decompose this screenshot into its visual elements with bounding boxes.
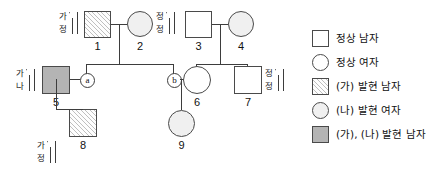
individual-8-symbol[interactable] [69, 109, 97, 137]
y-chromosome-icon [26, 69, 33, 91]
chromosome-bars-7 [274, 69, 285, 91]
legend-row-ga-male: (가) 발현 남자 [312, 74, 440, 98]
individual-3-symbol[interactable] [185, 11, 212, 38]
individual-4-label: 4 [228, 41, 254, 52]
y-chromosome-icon [166, 12, 173, 34]
legend-row-normal-male: 정상 남자 [312, 26, 440, 50]
legend-symbol-normal-female [312, 54, 329, 71]
x-chromosome-icon [34, 69, 35, 91]
allele-column-8: 가 정 [37, 141, 45, 163]
sibship-line-a-b [86, 64, 174, 65]
individual-9-symbol[interactable] [168, 110, 195, 137]
allele-bottom-8: 정 [37, 154, 45, 163]
legend-label-normal-female: 정상 여자 [336, 56, 379, 68]
legend-symbol-ga-na-male [312, 126, 329, 143]
anonymous-member-b[interactable]: b [167, 73, 182, 88]
mating-line-5-a [70, 79, 80, 80]
individual-7-symbol[interactable] [234, 66, 262, 94]
allele-bottom-1: 정 [59, 25, 67, 34]
chromosome-bars-8 [46, 141, 57, 163]
allele-bottom-3: 정 [156, 25, 164, 34]
individual-1-label: 1 [84, 41, 111, 52]
x-chromosome-icon [77, 12, 78, 34]
x-chromosome-icon [283, 69, 284, 91]
allele-column-3: 정 정 [156, 12, 164, 34]
descent-line-b-6 [181, 79, 182, 110]
genotype-marker-1: 가 정 [59, 11, 80, 35]
legend-symbol-na-female [312, 102, 329, 119]
individual-6-label: 6 [183, 97, 211, 108]
legend-row-normal-female: 정상 여자 [312, 50, 440, 74]
individual-9-label: 9 [168, 140, 195, 151]
legend-row-na-female: (나) 발현 여자 [312, 98, 440, 122]
legend-label-ga-na-male: (가), (나) 발현 남자 [336, 128, 426, 140]
chromosome-bars-5 [25, 69, 36, 91]
legend-row-ga-na-male: (가), (나) 발현 남자 [312, 122, 440, 146]
individual-4-symbol[interactable] [228, 11, 254, 37]
y-chromosome-icon [69, 12, 76, 34]
allele-column-7: 정 정 [265, 69, 273, 91]
allele-column-5: 가 나 [16, 69, 24, 91]
chromosome-bars-3 [165, 12, 176, 34]
legend: 정상 남자 정상 여자 (가) 발현 남자 (나) 발현 여자 (가), (나)… [312, 26, 440, 146]
allele-top-7: 정 [265, 69, 273, 78]
x-chromosome-icon [174, 12, 175, 34]
individual-3-label: 3 [185, 41, 212, 52]
descent-line-3-4 [220, 24, 221, 64]
legend-label-normal-male: 정상 남자 [336, 32, 379, 44]
genotype-marker-7: 정 정 [265, 68, 286, 92]
allele-top-5: 가 [16, 69, 24, 78]
legend-symbol-normal-male [312, 30, 329, 47]
link-line-to-8 [56, 109, 83, 110]
individual-8-label: 8 [69, 140, 97, 151]
chromosome-bars-1 [68, 12, 79, 34]
y-chromosome-icon [275, 69, 282, 91]
individual-2-symbol[interactable] [127, 11, 153, 37]
allele-top-3: 정 [156, 12, 164, 21]
individual-2-label: 2 [127, 41, 153, 52]
allele-bottom-5: 나 [16, 82, 24, 91]
allele-bottom-7: 정 [265, 82, 273, 91]
allele-top-1: 가 [59, 12, 67, 21]
genotype-marker-8: 가 정 [37, 140, 58, 164]
individual-6-symbol[interactable] [183, 66, 211, 94]
anonymous-member-a[interactable]: a [80, 73, 95, 88]
individual-7-label: 7 [234, 97, 262, 108]
individual-1-symbol[interactable] [84, 11, 111, 38]
allele-column-1: 가 정 [59, 12, 67, 34]
genotype-marker-3: 정 정 [156, 11, 177, 35]
y-chromosome-icon [47, 141, 54, 163]
allele-top-8: 가 [37, 141, 45, 150]
descent-line-5-a [56, 79, 57, 109]
legend-label-ga-male: (가) 발현 남자 [336, 80, 401, 92]
pedigree-screenshot: 가 정 1 2 정 정 3 4 [0, 0, 445, 176]
legend-label-na-female: (나) 발현 여자 [336, 104, 401, 116]
genotype-marker-5: 가 나 [16, 68, 37, 92]
legend-symbol-ga-male [312, 78, 329, 95]
descent-line-1-2 [119, 24, 120, 64]
x-chromosome-icon [55, 141, 56, 163]
